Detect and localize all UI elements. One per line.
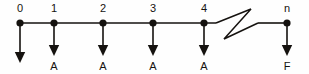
arrow-label-period-n: F — [284, 60, 291, 72]
tick-label-period-0: 0 — [17, 2, 23, 14]
tick-label-period-n: n — [284, 2, 290, 14]
tick-label-period-2: 2 — [100, 2, 106, 14]
arrow-head-period-3 — [148, 45, 158, 56]
timeline-node-period-3: 3 A — [148, 2, 158, 72]
timeline-node-period-4: 4 A — [199, 2, 209, 72]
arrow-label-period-3: A — [149, 60, 157, 72]
arrow-head-period-n — [282, 45, 292, 56]
arrow-label-period-2: A — [99, 60, 107, 72]
tick-label-period-3: 3 — [150, 2, 156, 14]
arrow-label-period-1: A — [50, 60, 58, 72]
arrow-head-period-0 — [15, 52, 25, 63]
zigzag-break-icon — [216, 9, 258, 39]
cash-flow-timeline-diagram: 0 1 A 2 A 3 A — [0, 0, 309, 74]
tick-label-period-4: 4 — [201, 2, 207, 14]
tick-label-period-1: 1 — [51, 2, 57, 14]
arrow-head-period-1 — [49, 45, 59, 56]
arrow-head-period-2 — [98, 45, 108, 56]
arrow-head-period-4 — [199, 45, 209, 56]
timeline-node-period-2: 2 A — [98, 2, 108, 72]
timeline-svg: 0 1 A 2 A 3 A — [0, 0, 309, 74]
timeline-node-period-n: n F — [282, 2, 292, 72]
timeline-node-period-0: 0 — [15, 2, 25, 63]
arrow-label-period-4: A — [200, 60, 208, 72]
timeline-node-period-1: 1 A — [49, 2, 59, 72]
